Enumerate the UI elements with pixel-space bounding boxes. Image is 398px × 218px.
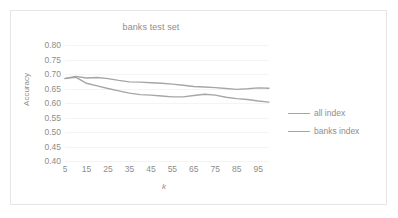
plot-area: 0.800.750.700.650.600.550.500.450.40 515… — [65, 45, 269, 161]
x-axis-tick-label: 85 — [232, 165, 241, 174]
y-axis-tick-label: 0.80 — [44, 41, 61, 50]
y-axis-title: Accuracy — [22, 60, 31, 120]
x-axis-tick-label: 5 — [63, 165, 68, 174]
x-axis-tick-label: 35 — [125, 165, 134, 174]
y-axis-tick-label: 0.55 — [44, 113, 61, 122]
y-axis-tick-label: 0.40 — [44, 157, 61, 166]
legend-label: all index — [314, 108, 345, 118]
data-lines — [65, 45, 269, 161]
series-line-all-index — [65, 76, 269, 89]
x-axis-tick-label: 55 — [168, 165, 177, 174]
y-axis-tick-label: 0.45 — [44, 142, 61, 151]
legend-label: banks index — [314, 126, 359, 136]
y-axis-tick-label: 0.60 — [44, 99, 61, 108]
y-axis-tick-label: 0.70 — [44, 70, 61, 79]
legend-item[interactable]: all index — [288, 104, 392, 122]
x-axis-tick-label: 95 — [254, 165, 263, 174]
y-axis-tick-label: 0.50 — [44, 128, 61, 137]
x-axis-tick-label: 25 — [103, 165, 112, 174]
x-axis-tick-label: 65 — [189, 165, 198, 174]
chart-title: banks test set — [11, 22, 291, 32]
x-axis-tick-label: 15 — [82, 165, 91, 174]
y-axis-tick-label: 0.75 — [44, 55, 61, 64]
gridline — [65, 161, 269, 162]
y-axis-tick-label: 0.65 — [44, 84, 61, 93]
x-axis-title: k — [59, 182, 269, 191]
legend-swatch-icon — [288, 113, 310, 114]
legend-swatch-icon — [288, 131, 310, 132]
legend-item[interactable]: banks index — [288, 122, 392, 140]
x-axis-tick-label: 45 — [146, 165, 155, 174]
x-axis-tick-label: 75 — [211, 165, 220, 174]
chart-legend: all indexbanks index — [288, 104, 392, 140]
